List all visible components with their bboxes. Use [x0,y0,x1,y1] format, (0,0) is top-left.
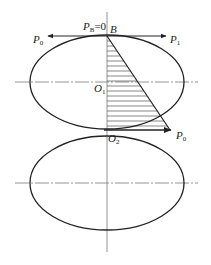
label-pb-zero: PB=0 [82,20,107,34]
ellipse-pressure-diagram: PB=0 B P0 P1 O1 O2 P0 [0,0,211,265]
label-p1: P1 [169,33,181,47]
label-o2: O2 [108,132,120,146]
label-p0-left: P0 [32,33,44,47]
label-o1: O1 [94,82,106,96]
label-p0-right: P0 [175,129,187,143]
label-b: B [110,23,117,35]
